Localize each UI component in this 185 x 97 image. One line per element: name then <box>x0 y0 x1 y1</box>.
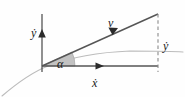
velocity-label: v <box>108 16 114 30</box>
y-axis-label: ẏ <box>30 26 37 40</box>
x-axis-label: ẋ <box>91 76 98 90</box>
angle-label: α <box>57 57 64 71</box>
velocity-vector-figure: ẏ ẋ v α ẏ <box>0 0 185 97</box>
y-component-label: ẏ <box>162 39 169 53</box>
diagram-canvas: ẏ ẋ v α ẏ <box>0 0 185 97</box>
